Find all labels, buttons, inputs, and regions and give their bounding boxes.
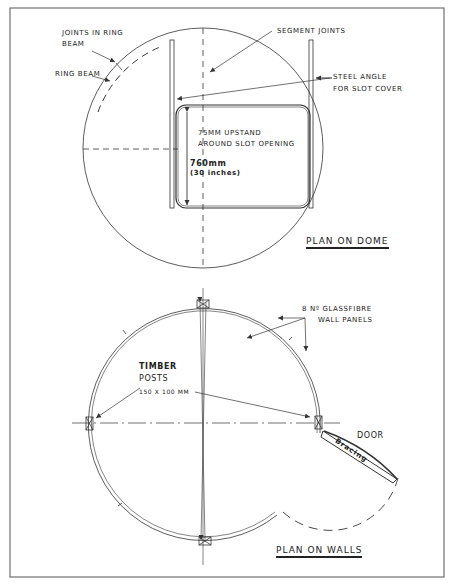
label-post-size: 150 x 100 MM (139, 387, 189, 396)
diameter-line-a (200, 302, 205, 540)
label-dimension-mm: 760mm (190, 159, 226, 168)
slot-upstand-inner (178, 107, 308, 206)
label-upstand: 75mm Upstand (198, 129, 261, 138)
plan-on-walls (72, 288, 398, 565)
panel-joint-tick (123, 330, 126, 334)
label-joints-in-ring-beam-2: Beam (62, 40, 84, 49)
label-ring-beam: Ring Beam (55, 70, 100, 79)
leader-timber-right (195, 392, 310, 417)
ring-beam-dashed (98, 47, 160, 112)
panel-joint-tick (289, 337, 292, 340)
label-glassfibre-panels: 8 Nº Glassfibre (302, 305, 372, 314)
label-door: Door (357, 431, 384, 440)
label-dimension-inches: (30 inches) (190, 169, 241, 178)
leader-joint-tick (116, 63, 122, 70)
timber-post-left (86, 417, 93, 430)
leader-timber-left (96, 388, 140, 418)
label-segment-joints: Segment Joints (277, 27, 345, 36)
label-steel-angle: Steel Angle (333, 73, 387, 82)
door-swing-arc (283, 478, 398, 530)
title-plan-on-walls: Plan on Walls (276, 545, 362, 558)
leader-joints (92, 51, 115, 62)
label-slot-opening: Around Slot Opening (198, 140, 295, 149)
steel-angle-left (170, 40, 174, 208)
label-timber: Timber (139, 362, 177, 371)
label-wall-panels: Wall Panels (318, 316, 373, 325)
diameter-line-b (201, 302, 206, 540)
leader-segment-joints (210, 31, 272, 72)
slot-upstand-outer (176, 105, 310, 208)
title-plan-on-dome: Plan on Dome (306, 236, 389, 249)
label-slot-cover: For Slot Cover (333, 85, 402, 94)
label-posts: Posts (139, 374, 168, 383)
timber-post-right (315, 416, 322, 429)
label-joints-in-ring-beam: Joints in Ring (62, 29, 123, 38)
leader-panels-3 (305, 318, 306, 351)
